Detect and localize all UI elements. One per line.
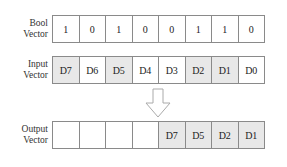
output-cell: D7 [158,121,186,149]
label-line: Output [0,124,48,135]
label-line: Vector [0,29,48,40]
input-cell: D6 [79,56,107,84]
input-cell: D2 [185,56,213,84]
label-line: Bool [0,18,48,29]
output-cell [52,121,80,149]
bool-cell: 1 [105,15,133,43]
input-cell: D0 [238,56,266,84]
label-line: Input [0,59,48,70]
input-cell: D7 [52,56,80,84]
output-cell [132,121,160,149]
bool-cell: 1 [185,15,213,43]
bool-cell: 0 [132,15,160,43]
output-vector-label: Output Vector [0,124,48,146]
bool-cell: 1 [52,15,80,43]
output-cell: D2 [211,121,239,149]
bool-vector-row: 10100110 [52,15,265,43]
bool-cell: 1 [211,15,239,43]
bool-cell: 0 [158,15,186,43]
label-line: Vector [0,70,48,81]
output-cell [79,121,107,149]
output-cell [105,121,133,149]
bool-cell: 0 [238,15,266,43]
input-vector-label: Input Vector [0,59,48,81]
output-cell: D1 [238,121,266,149]
bool-vector-label: Bool Vector [0,18,48,40]
bool-cell: 0 [79,15,107,43]
output-cell: D5 [185,121,213,149]
input-vector-row: D7D6D5D4D3D2D1D0 [52,56,265,84]
input-cell: D4 [132,56,160,84]
input-cell: D3 [158,56,186,84]
label-line: Vector [0,135,48,146]
down-arrow-icon [145,88,171,118]
output-vector-row: D7D5D2D1 [52,121,265,149]
input-cell: D1 [211,56,239,84]
input-cell: D5 [105,56,133,84]
